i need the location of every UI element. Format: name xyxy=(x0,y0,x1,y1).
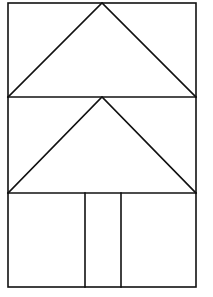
tree-diagram xyxy=(0,0,213,297)
outer-rectangle xyxy=(8,3,196,287)
upper-triangle xyxy=(8,3,196,97)
lower-triangle xyxy=(8,97,196,193)
tree-diagram-svg xyxy=(0,0,213,297)
